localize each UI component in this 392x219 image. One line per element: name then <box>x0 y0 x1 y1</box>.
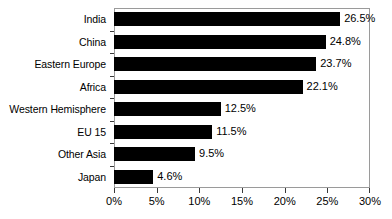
y-axis-tick <box>110 98 114 99</box>
bar-value-label: 12.5% <box>225 101 256 116</box>
x-axis-tick-label: 25% <box>307 194 347 208</box>
bar-row: 12.5% <box>114 102 370 116</box>
x-axis-tick <box>114 188 115 193</box>
x-axis-tick <box>199 188 200 193</box>
y-axis-tick <box>110 76 114 77</box>
bar-value-label: 26.5% <box>344 11 375 26</box>
x-axis-tick <box>157 188 158 193</box>
y-axis-tick <box>110 166 114 167</box>
bar-row: 4.6% <box>114 170 370 184</box>
bar-row: 26.5% <box>114 12 370 26</box>
category-label: Other Asia <box>0 148 106 160</box>
x-axis-tick-label: 20% <box>265 194 305 208</box>
x-axis-labels: 0%5%10%15%20%25%30% <box>114 194 370 212</box>
x-axis-tick <box>369 188 370 193</box>
bar-row: 22.1% <box>114 80 370 94</box>
y-axis-tick <box>110 143 114 144</box>
category-label: EU 15 <box>0 126 106 138</box>
y-axis-tick <box>110 31 114 32</box>
bar-row: 23.7% <box>114 57 370 71</box>
bars-layer: 26.5%24.8%23.7%22.1%12.5%11.5%9.5%4.6% <box>114 8 370 188</box>
bar-value-label: 9.5% <box>199 146 224 161</box>
bar <box>114 35 326 49</box>
category-label: Africa <box>0 81 106 93</box>
bar <box>114 147 195 161</box>
category-label: China <box>0 36 106 48</box>
bar-row: 9.5% <box>114 147 370 161</box>
bar-chart: IndiaChinaEastern EuropeAfricaWestern He… <box>0 0 392 219</box>
y-axis-tick <box>110 121 114 122</box>
y-axis-tick <box>110 53 114 54</box>
bar-value-label: 11.5% <box>216 124 246 139</box>
category-label: India <box>0 13 106 25</box>
bar <box>114 170 153 184</box>
category-label: Japan <box>0 171 106 183</box>
category-axis: IndiaChinaEastern EuropeAfricaWestern He… <box>0 8 110 188</box>
bar-value-label: 24.8% <box>330 34 361 49</box>
x-axis-tick <box>242 188 243 193</box>
bar-value-label: 22.1% <box>307 79 338 94</box>
bar-value-label: 4.6% <box>157 169 182 184</box>
category-label: Eastern Europe <box>0 58 106 70</box>
x-axis-tick-label: 0% <box>94 194 134 208</box>
x-axis-tick-label: 30% <box>350 194 390 208</box>
bar-row: 11.5% <box>114 125 370 139</box>
x-axis-tick-label: 15% <box>222 194 262 208</box>
x-axis-tick <box>327 188 328 193</box>
bar-value-label: 23.7% <box>320 56 351 71</box>
bar <box>114 125 212 139</box>
category-label: Western Hemisphere <box>0 103 106 115</box>
bar <box>114 102 221 116</box>
bar-row: 24.8% <box>114 35 370 49</box>
bar <box>114 57 316 71</box>
x-axis-tick-label: 10% <box>179 194 219 208</box>
x-axis-tick <box>285 188 286 193</box>
bar <box>114 12 340 26</box>
bar <box>114 80 303 94</box>
x-axis-tick-label: 5% <box>137 194 177 208</box>
